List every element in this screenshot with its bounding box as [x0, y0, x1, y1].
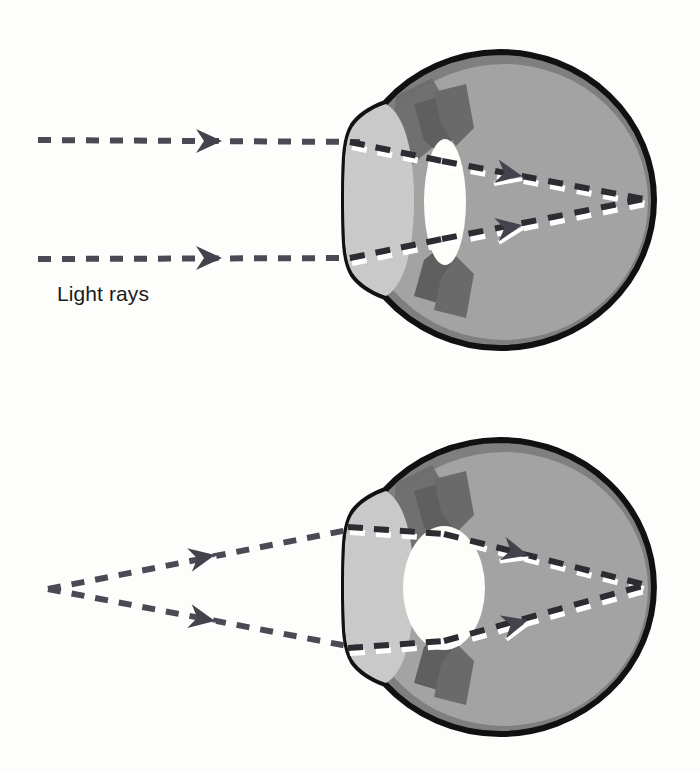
panel-distant-vision — [38, 40, 654, 370]
eye-accommodation-figure: Light rays — [0, 0, 700, 772]
light-rays-near — [48, 528, 358, 648]
ray-lower-distant — [38, 246, 360, 273]
ray-upper-near — [48, 528, 358, 589]
eyeball-bottom — [330, 428, 654, 758]
ray-upper-distant — [38, 129, 360, 156]
light-rays-distant — [38, 129, 360, 273]
ray-lower-outer-line — [38, 258, 360, 259]
ray-upper-outer-line — [38, 140, 360, 142]
panel-near-vision — [48, 428, 654, 758]
ray-lower-near — [48, 589, 358, 648]
eye-diagram-svg — [0, 0, 700, 772]
